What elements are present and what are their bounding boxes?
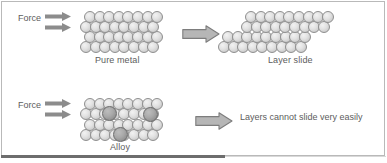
slip-diagram-figure: Force Pure metal Layer slide Force Alloy (0, 0, 387, 163)
atom (322, 11, 334, 23)
force-label-pure-metal: Force (18, 13, 41, 23)
force-arrow-alloy-top (45, 99, 71, 108)
dopant-atom (143, 107, 158, 122)
caption-layer-slide: Layer slide (268, 55, 313, 65)
caption-pure-metal: Pure metal (95, 55, 140, 65)
transition-arrow-bottom (195, 112, 233, 130)
bottom-rule-light (225, 156, 386, 157)
bottom-rule-dark (1, 155, 225, 158)
force-arrow-pure-top (45, 12, 71, 21)
force-arrow-alloy-bottom (45, 110, 71, 119)
atom (151, 11, 163, 23)
force-label-alloy: Force (18, 100, 41, 110)
dopant-atom (113, 127, 128, 142)
text-layers-cannot-slide: Layers cannot slide very easily (240, 112, 363, 122)
force-arrow-pure-bottom (45, 23, 71, 32)
transition-arrow-top (182, 25, 220, 43)
dopant-atom (102, 106, 117, 121)
caption-alloy: Alloy (110, 142, 130, 152)
